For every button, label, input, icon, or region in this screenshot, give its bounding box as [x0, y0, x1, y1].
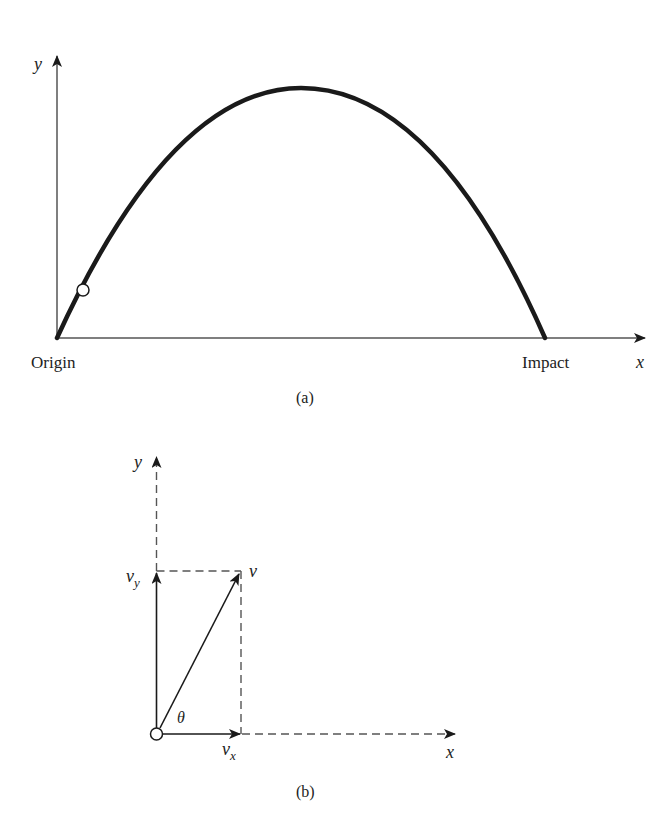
projectile-position-circle — [77, 284, 89, 296]
projectile-motion-figure: y x Origin Impact (a) y x — [0, 0, 671, 827]
caption-a: (a) — [296, 389, 314, 407]
impact-label: Impact — [522, 353, 569, 372]
caption-b: (b) — [296, 783, 315, 801]
trajectory-curve — [57, 88, 545, 338]
velocity-vector-arrow — [160, 574, 239, 728]
projectile-origin-circle — [151, 728, 163, 740]
velocity-label: v — [249, 561, 257, 581]
vx-label: vx — [222, 739, 236, 763]
theta-angle-label: θ — [177, 709, 185, 726]
origin-label: Origin — [31, 353, 76, 372]
x-axis-label-b: x — [445, 742, 454, 762]
y-axis-label: y — [32, 54, 42, 74]
y-axis-label-b: y — [132, 452, 142, 472]
panel-a: y x Origin Impact (a) — [31, 54, 645, 407]
x-axis-label: x — [635, 352, 644, 372]
panel-b: y x vy v vx θ (b) — [126, 452, 455, 801]
vy-label: vy — [126, 566, 140, 590]
